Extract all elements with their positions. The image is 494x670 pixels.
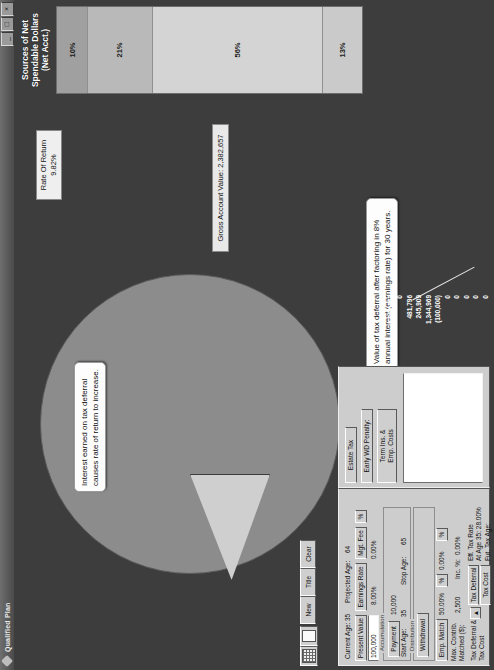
legend-value-10: 0 bbox=[482, 295, 489, 357]
new-button[interactable]: New bbox=[300, 596, 316, 624]
fut-tax-age-label: Fut. Tax Age: bbox=[484, 523, 491, 561]
rotated-screenshot-wrapper: Qualified Plan _ □ × Sources of Net Spen… bbox=[0, 0, 494, 670]
emp-match-button[interactable]: Emp. Match bbox=[436, 619, 448, 661]
projected-age-value: 64 bbox=[344, 546, 351, 553]
bar-segment-3: 13% bbox=[323, 7, 362, 93]
emp-match-percent2-button[interactable]: % bbox=[436, 528, 448, 541]
bar-segment-0: 10% bbox=[57, 7, 88, 93]
toolbar: New Title Clear bbox=[300, 490, 334, 666]
emp-match-rate2: 0.00% bbox=[438, 552, 445, 570]
window-controls: _ □ × bbox=[1, 0, 14, 46]
tax-deferral-cost-label-1: Tax Deferral & bbox=[470, 620, 477, 661]
tax-deferral-cost-label-2: Tax Cost bbox=[478, 636, 485, 661]
distribution-group-label: Distribution bbox=[409, 619, 415, 653]
estate-tax-button[interactable]: Estate Tax bbox=[345, 427, 357, 483]
accumulation-group-label: Accumulation bbox=[379, 613, 385, 653]
max-contrib-label-2: Matched ($): bbox=[458, 625, 465, 662]
spinner-up-arrow-icon[interactable]: ▲ bbox=[470, 607, 481, 619]
rate-of-return-box: Rate Of Return 9.82% bbox=[36, 130, 62, 200]
emp-match-percent-button[interactable]: % bbox=[436, 574, 448, 587]
eff-tax-rate-sub: At Age 35: 28.00% bbox=[475, 507, 482, 561]
input-form-panel: Current Age: 35 Projected Age: 64 Presen… bbox=[338, 488, 490, 666]
secondary-form-panel: Estate Tax Early WD Penalty: Term Ins. &… bbox=[338, 366, 490, 488]
present-value-input[interactable]: 100,000 bbox=[368, 615, 379, 661]
grid-icon bbox=[302, 649, 316, 663]
gross-account-value-amount: 2,382,657 bbox=[216, 134, 225, 167]
current-age-value: 35 bbox=[344, 614, 351, 621]
minimize-button[interactable]: _ bbox=[1, 32, 14, 46]
window-title-bar: Qualified Plan _ □ × bbox=[0, 0, 15, 670]
legend-value-6: 0 bbox=[444, 295, 451, 357]
bar-title-line-2: Spendable Dollars bbox=[30, 6, 40, 94]
payment-button[interactable]: Payment bbox=[388, 621, 400, 657]
app-diamond-icon bbox=[1, 655, 13, 667]
bar-segment-2: 56% bbox=[153, 7, 323, 93]
earnings-rate-button[interactable]: Earnings Rate bbox=[355, 563, 367, 611]
clear-button[interactable]: Clear bbox=[300, 540, 316, 568]
rate-of-return-label: Rate Of Return bbox=[39, 133, 49, 197]
legend-value-9: 0 bbox=[472, 295, 479, 357]
withdrawal-button[interactable]: Withdrawal bbox=[417, 613, 429, 657]
notes-area[interactable] bbox=[403, 373, 483, 483]
stop-age-value: 65 bbox=[400, 538, 407, 545]
term-ins-label-2: Emp. Costs bbox=[387, 429, 395, 463]
legend-value-0: 2,382,657 bbox=[387, 295, 394, 357]
window-title: Qualified Plan bbox=[4, 603, 11, 652]
legend-value-4: 1,344,969 bbox=[425, 295, 432, 357]
page-icon bbox=[302, 630, 316, 642]
legend-value-7: 0 bbox=[453, 295, 460, 357]
start-age-value: 35 bbox=[400, 610, 407, 617]
legend-value-1: 0 bbox=[396, 295, 403, 357]
earnings-rate-value: 8.00% bbox=[370, 587, 377, 605]
early-wd-penalty-button[interactable]: Early WD Penalty: bbox=[361, 409, 373, 483]
title-button[interactable]: Title bbox=[300, 568, 316, 596]
bar-chart-title: Sources of Net Spendable Dollars (Net Ac… bbox=[20, 6, 50, 94]
term-ins-emp-costs-button[interactable]: Term Ins. & Emp. Costs bbox=[377, 409, 397, 483]
legend-value-8: 0 bbox=[463, 295, 470, 357]
grid-button[interactable] bbox=[300, 646, 318, 666]
emp-match-value: 50.00% bbox=[438, 593, 445, 615]
payment-value: 10,000 bbox=[390, 595, 397, 615]
mgt-fee-percent-button[interactable]: % bbox=[355, 510, 367, 523]
stop-age-label: Stop Age: bbox=[400, 557, 407, 585]
maximize-button[interactable]: □ bbox=[1, 17, 14, 31]
callout-interest: Interest earned on tax deferral causes r… bbox=[74, 362, 106, 492]
bar-title-line-1: Sources of Net bbox=[20, 6, 30, 94]
tax-deferral-button[interactable]: Tax Deferral bbox=[468, 565, 479, 605]
start-age-label: Start Age: bbox=[400, 628, 407, 657]
tax-cost-button[interactable]: Tax Cost bbox=[480, 565, 491, 605]
max-contrib-value: 2,500 bbox=[454, 597, 461, 613]
page-button[interactable] bbox=[300, 626, 318, 646]
bar-stack: 10%21%56%13% bbox=[56, 6, 363, 94]
projected-age-label: Projected Age: bbox=[344, 561, 351, 603]
legend-value-2: 481,796 bbox=[406, 295, 413, 357]
bar-segment-1: 21% bbox=[88, 7, 152, 93]
term-ins-label-1: Term Ins. & bbox=[379, 430, 387, 463]
mgt-fee-value: 0.00% bbox=[370, 541, 377, 559]
sources-bar-chart: Sources of Net Spendable Dollars (Net Ac… bbox=[20, 6, 370, 94]
legend-value-5: (100,000) bbox=[434, 295, 441, 357]
application-window: Qualified Plan _ □ × Sources of Net Spen… bbox=[0, 0, 494, 670]
rate-of-return-value: 9.82% bbox=[49, 133, 59, 197]
mgt-fee-button[interactable]: Mgt. Fee bbox=[355, 527, 367, 559]
current-age-label: Current Age: bbox=[344, 623, 351, 660]
bar-title-line-3: (Net Acct.) bbox=[40, 6, 50, 94]
gross-account-value-box: Gross Account Value: 2,382,657 bbox=[212, 124, 229, 252]
inc-pct-label: Inc. %: bbox=[454, 559, 461, 579]
present-value-button[interactable]: Present Value bbox=[355, 615, 367, 661]
max-contrib-label-1: Max. Contrib. bbox=[450, 622, 457, 661]
inc-pct-value: 0.00% bbox=[454, 537, 461, 555]
close-button[interactable]: × bbox=[1, 2, 14, 16]
eff-tax-rate-label: Eff. Tax Rate bbox=[467, 524, 474, 561]
gross-account-value-label: Gross Account Value: bbox=[216, 170, 225, 242]
legend-value-3: 245,909 bbox=[415, 295, 422, 357]
